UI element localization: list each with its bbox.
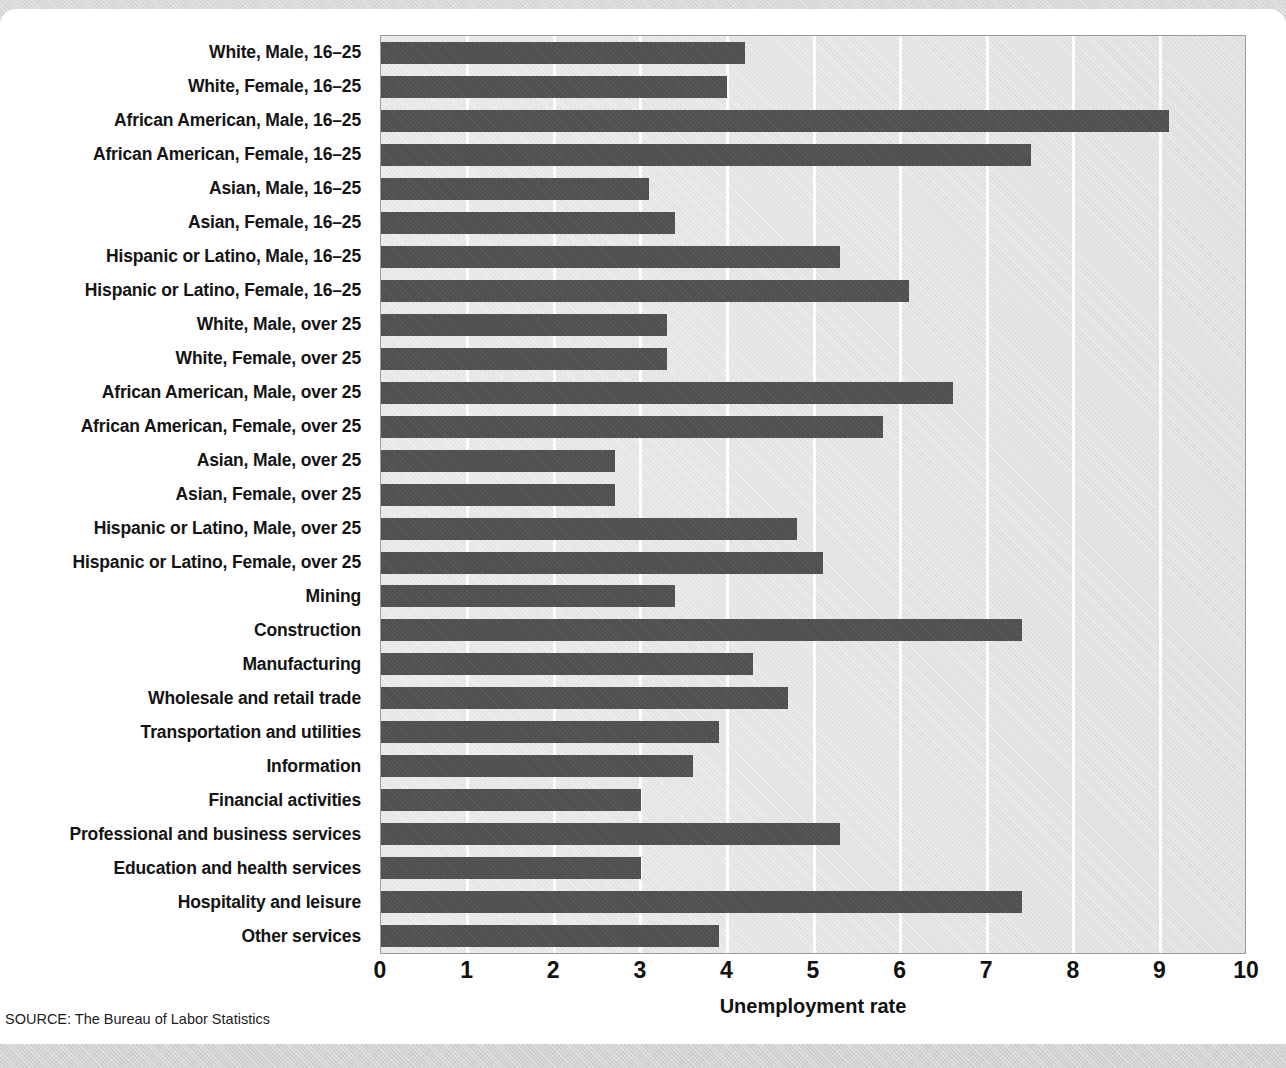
bar [381, 755, 693, 777]
bar-row [381, 274, 1245, 308]
bar [381, 144, 1031, 166]
bar-row [381, 851, 1245, 885]
y-axis-label: Other services [0, 920, 372, 954]
cropped-figure-title [0, 0, 1286, 8]
bar [381, 178, 649, 200]
bar [381, 518, 797, 540]
bar-row [381, 376, 1245, 410]
bar-row [381, 206, 1245, 240]
x-axis-tick-label: 6 [893, 957, 906, 984]
bar [381, 484, 615, 506]
y-axis-label: Hispanic or Latino, Male, 16–25 [0, 239, 372, 273]
bar [381, 76, 727, 98]
bar-row [381, 138, 1245, 172]
bar-row [381, 342, 1245, 376]
bar [381, 110, 1169, 132]
bar [381, 416, 883, 438]
bar [381, 314, 667, 336]
bar-row [381, 512, 1245, 546]
y-axis-label: Manufacturing [0, 648, 372, 682]
bar-row [381, 613, 1245, 647]
bar-row [381, 478, 1245, 512]
bar-row [381, 104, 1245, 138]
bar-row [381, 817, 1245, 851]
y-axis-label: African American, Male, 16–25 [0, 103, 372, 137]
bar-row [381, 580, 1245, 614]
x-axis-title: Unemployment rate [380, 995, 1246, 1018]
plot-area [380, 35, 1246, 954]
bar [381, 212, 675, 234]
y-axis-label: Hispanic or Latino, Male, over 25 [0, 511, 372, 545]
y-axis-label: Asian, Male, 16–25 [0, 171, 372, 205]
x-axis-tick-label: 3 [633, 957, 646, 984]
bar [381, 552, 823, 574]
bar-row [381, 308, 1245, 342]
y-axis-label: Hispanic or Latino, Female, 16–25 [0, 273, 372, 307]
y-axis-label: Hispanic or Latino, Female, over 25 [0, 545, 372, 579]
bar-chart: White, Male, 16–25White, Female, 16–25Af… [0, 9, 1286, 1044]
x-axis-tick-label: 4 [720, 957, 733, 984]
y-axis-label: African American, Female, 16–25 [0, 137, 372, 171]
x-axis-tick-label: 5 [807, 957, 820, 984]
x-axis-tick-label: 1 [460, 957, 473, 984]
bar [381, 42, 745, 64]
y-axis-label: Asian, Female, over 25 [0, 477, 372, 511]
bar-row [381, 749, 1245, 783]
chart-card: White, Male, 16–25White, Female, 16–25Af… [0, 9, 1286, 1044]
source-note: SOURCE: The Bureau of Labor Statistics [5, 1011, 270, 1027]
bar [381, 891, 1022, 913]
bar-row [381, 681, 1245, 715]
y-axis-label: Wholesale and retail trade [0, 682, 372, 716]
y-axis-labels: White, Male, 16–25White, Female, 16–25Af… [0, 35, 372, 954]
bar [381, 280, 909, 302]
bar-row [381, 715, 1245, 749]
bar-row [381, 410, 1245, 444]
bar-row [381, 647, 1245, 681]
bar-row [381, 546, 1245, 580]
y-axis-label: White, Female, over 25 [0, 341, 372, 375]
x-axis-ticks: 012345678910 [380, 957, 1246, 991]
y-axis-label: Education and health services [0, 852, 372, 886]
bar [381, 823, 840, 845]
bar [381, 450, 615, 472]
bar-row [381, 885, 1245, 919]
bar [381, 246, 840, 268]
y-axis-label: Mining [0, 580, 372, 614]
bar [381, 619, 1022, 641]
bar-row [381, 172, 1245, 206]
bar [381, 925, 719, 947]
y-axis-label: White, Male, over 25 [0, 307, 372, 341]
bar [381, 348, 667, 370]
bar-row [381, 36, 1245, 70]
y-axis-label: White, Female, 16–25 [0, 69, 372, 103]
bar-row [381, 783, 1245, 817]
x-axis-tick-label: 10 [1233, 957, 1259, 984]
y-axis-label: Hospitality and leisure [0, 886, 372, 920]
bar [381, 382, 953, 404]
x-axis-tick-label: 0 [374, 957, 387, 984]
y-axis-label: Construction [0, 614, 372, 648]
x-axis-tick-label: 9 [1153, 957, 1166, 984]
bar [381, 857, 641, 879]
bar [381, 585, 675, 607]
y-axis-label: Information [0, 750, 372, 784]
bar [381, 721, 719, 743]
bar [381, 789, 641, 811]
bar-series [381, 36, 1245, 953]
y-axis-label: African American, Female, over 25 [0, 409, 372, 443]
bar-row [381, 919, 1245, 953]
y-axis-label: White, Male, 16–25 [0, 35, 372, 69]
bar-row [381, 70, 1245, 104]
bar-row [381, 444, 1245, 478]
y-axis-label: Asian, Male, over 25 [0, 443, 372, 477]
y-axis-label: Transportation and utilities [0, 716, 372, 750]
bar [381, 687, 788, 709]
y-axis-label: African American, Male, over 25 [0, 375, 372, 409]
x-axis-tick-label: 7 [980, 957, 993, 984]
bar [381, 653, 753, 675]
y-axis-label: Professional and business services [0, 818, 372, 852]
x-axis-tick-label: 2 [547, 957, 560, 984]
x-axis-tick-label: 8 [1066, 957, 1079, 984]
y-axis-label: Asian, Female, 16–25 [0, 205, 372, 239]
y-axis-label: Financial activities [0, 784, 372, 818]
